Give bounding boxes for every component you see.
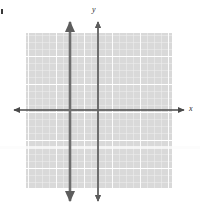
y-axis-label: y (92, 6, 96, 14)
x-axis-label: x (189, 105, 193, 113)
coordinate-plane (0, 0, 200, 213)
scan-band-artifact (0, 146, 200, 149)
graph-figure: y x (0, 0, 200, 213)
